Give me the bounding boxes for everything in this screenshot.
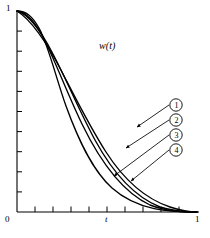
x-axis-right-label: 1 (195, 215, 200, 224)
legend-leader-lines (114, 105, 169, 181)
legend-label-4[interactable]: 4 (170, 144, 183, 157)
leader-line-2 (126, 120, 169, 148)
y-axis-ticks (17, 31, 22, 192)
legend-label-1[interactable]: 1 (170, 99, 183, 112)
leader-line-3 (114, 135, 169, 176)
legend-label-3[interactable]: 3 (170, 129, 183, 142)
legend-label-2[interactable]: 2 (170, 114, 183, 127)
x-axis-variable-label: t (105, 215, 108, 224)
figure-container: 1 0 t 1 w(t) 1 2 3 4 (0, 0, 210, 238)
leader-line-4 (131, 150, 169, 181)
function-label: w(t) (99, 40, 116, 51)
leader-line-1 (137, 105, 169, 127)
y-axis-top-label: 1 (6, 4, 11, 13)
origin-label: 0 (5, 215, 10, 224)
